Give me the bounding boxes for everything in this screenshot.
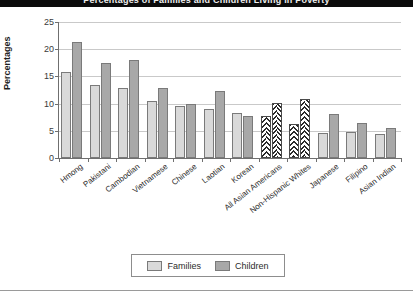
x-tick-mark — [230, 158, 231, 162]
x-tick-mark — [88, 158, 89, 162]
x-tick-mark — [344, 158, 345, 162]
bar-families — [261, 116, 271, 158]
bar-group — [316, 22, 345, 158]
y-tick-label: 25 — [44, 17, 54, 27]
x-tick-mark — [116, 158, 117, 162]
y-tick-label: 0 — [49, 153, 54, 163]
y-tick-label: 5 — [49, 126, 54, 136]
x-tick-mark — [202, 158, 203, 162]
bar-families — [118, 88, 128, 158]
legend-label-families: Families — [167, 261, 201, 271]
y-tick-label: 20 — [44, 44, 54, 54]
y-tick-label: 15 — [44, 71, 54, 81]
bar-children — [215, 91, 225, 158]
x-tick-mark — [145, 158, 146, 162]
x-axis-label: Japanese — [308, 162, 341, 190]
bar-families — [318, 133, 328, 158]
legend-item-families: Families — [147, 261, 201, 271]
x-tick-mark — [59, 158, 60, 162]
x-tick-mark — [316, 158, 317, 162]
bar-group — [88, 22, 117, 158]
bar-families — [232, 113, 242, 158]
x-tick-mark — [373, 158, 374, 162]
bar-group — [173, 22, 202, 158]
x-tick-mark — [259, 158, 260, 162]
figure-title: Percentages of Families and Children Liv… — [83, 0, 329, 5]
bar-group — [344, 22, 373, 158]
plot-area: 0510152025 — [58, 22, 401, 159]
bar-families — [346, 132, 356, 158]
y-tick-label: 10 — [44, 99, 54, 109]
legend-label-children: Children — [235, 261, 269, 271]
bar-children — [186, 104, 196, 158]
bar-group — [373, 22, 402, 158]
bar-families — [204, 109, 214, 158]
bar-children — [243, 116, 253, 158]
bar-children — [357, 123, 367, 158]
bar-children — [329, 114, 339, 158]
bar-group — [116, 22, 145, 158]
x-tick-mark — [287, 158, 288, 162]
bar-children — [72, 42, 82, 158]
chart-figure: Percentages 0510152025 Families Children… — [0, 7, 413, 277]
bar-families — [375, 134, 385, 158]
bar-children — [129, 60, 139, 158]
bar-children — [101, 63, 111, 158]
figure-title-band: Percentages of Families and Children Liv… — [0, 0, 413, 7]
bar-families — [90, 85, 100, 158]
legend-swatch-families — [147, 261, 162, 271]
bar-group — [145, 22, 174, 158]
bar-group — [230, 22, 259, 158]
bar-children — [386, 128, 396, 158]
bar-families — [175, 106, 185, 158]
bar-group — [59, 22, 88, 158]
x-tick-mark — [401, 158, 402, 162]
bar-children — [272, 103, 282, 158]
bar-children — [300, 99, 310, 158]
y-axis-label: Percentages — [2, 36, 12, 90]
x-tick-mark — [173, 158, 174, 162]
x-axis-label: Laotian — [200, 162, 226, 185]
bar-children — [158, 88, 168, 158]
legend-swatch-children — [215, 261, 230, 271]
bar-families — [147, 101, 157, 158]
legend-item-children: Children — [215, 261, 269, 271]
bar-group — [259, 22, 288, 158]
chart-legend: Families Children — [131, 254, 285, 277]
bar-families — [61, 72, 71, 158]
x-axis-label: Chinese — [169, 162, 198, 187]
bar-group — [287, 22, 316, 158]
bar-families — [289, 124, 299, 158]
bar-group — [202, 22, 231, 158]
